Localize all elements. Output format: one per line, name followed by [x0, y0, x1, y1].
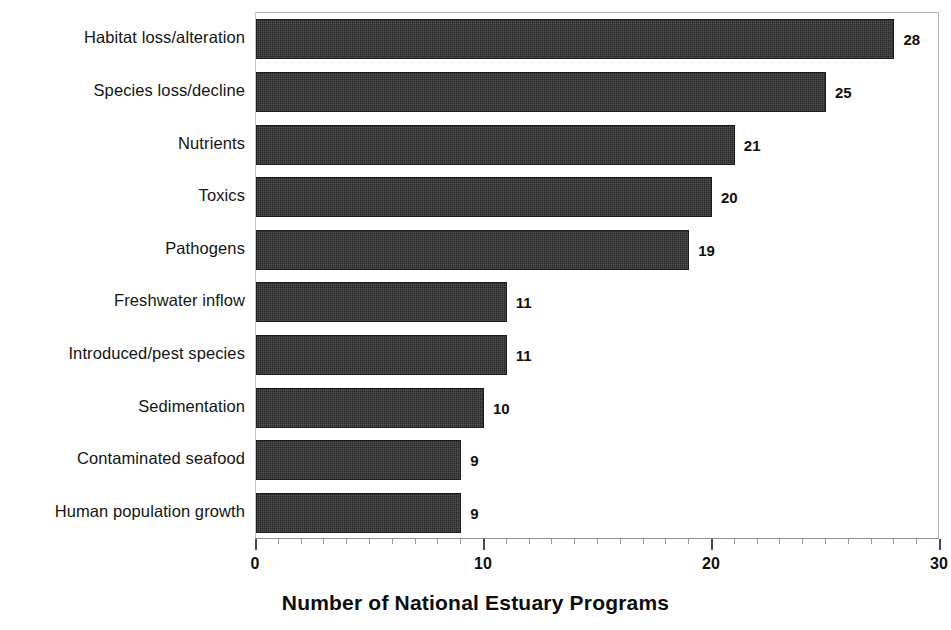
bar-value-label: 11: [516, 295, 532, 310]
x-axis-minor-tick: [688, 539, 689, 544]
x-axis-major-tick: [255, 539, 257, 550]
x-axis-minor-tick: [323, 539, 324, 544]
bar-chart: Habitat loss/alterationSpecies loss/decl…: [0, 0, 951, 630]
category-label: Introduced/pest species: [0, 345, 245, 362]
bar-value-label: 28: [903, 32, 920, 47]
x-axis-title: Number of National Estuary Programs: [0, 592, 951, 613]
bar-value-label: 9: [470, 506, 478, 521]
x-axis-minor-tick: [369, 539, 370, 544]
bar-value-label: 19: [698, 243, 715, 258]
category-label: Nutrients: [0, 135, 245, 152]
x-axis-minor-tick: [506, 539, 507, 544]
category-axis-labels: Habitat loss/alterationSpecies loss/decl…: [0, 12, 245, 538]
x-axis-minor-tick: [848, 539, 849, 544]
bar: [256, 493, 461, 533]
category-label: Human population growth: [0, 503, 245, 520]
bar-value-label: 25: [835, 85, 852, 100]
bar: [256, 440, 461, 480]
bar-value-label: 9: [470, 453, 478, 468]
x-axis-tick-label: 20: [702, 556, 720, 572]
x-axis-minor-tick: [643, 539, 644, 544]
x-axis-minor-tick: [529, 539, 530, 544]
category-label: Habitat loss/alteration: [0, 29, 245, 46]
x-axis-minor-tick: [620, 539, 621, 544]
bar: [256, 72, 826, 112]
x-axis-minor-tick: [301, 539, 302, 544]
x-axis-major-tick: [483, 539, 485, 550]
x-axis-minor-tick: [346, 539, 347, 544]
bar-value-label: 10: [493, 401, 510, 416]
x-axis-major-tick: [711, 539, 713, 550]
x-axis-minor-tick: [779, 539, 780, 544]
x-axis-minor-tick: [734, 539, 735, 544]
bar: [256, 230, 689, 270]
bar-value-label: 21: [744, 138, 761, 153]
category-label: Contaminated seafood: [0, 450, 245, 467]
x-axis-tick-label: 0: [251, 556, 260, 572]
x-axis-minor-tick: [802, 539, 803, 544]
bar: [256, 19, 894, 59]
bar-value-label: 20: [721, 190, 738, 205]
x-axis-major-tick: [939, 539, 941, 550]
x-axis-minor-tick: [278, 539, 279, 544]
x-axis-tick-label: 30: [930, 556, 948, 572]
x-axis-minor-tick: [757, 539, 758, 544]
x-axis-minor-tick: [893, 539, 894, 544]
bar: [256, 177, 712, 217]
bar: [256, 282, 507, 322]
x-axis-minor-tick: [916, 539, 917, 544]
category-label: Freshwater inflow: [0, 292, 245, 309]
category-label: Toxics: [0, 187, 245, 204]
x-axis-minor-tick: [665, 539, 666, 544]
x-axis-tick-label: 10: [474, 556, 492, 572]
plot-area: 282521201911111099: [255, 12, 939, 538]
x-axis-minor-tick: [437, 539, 438, 544]
x-axis-minor-tick: [415, 539, 416, 544]
x-axis-minor-tick: [825, 539, 826, 544]
bar: [256, 335, 507, 375]
category-label: Pathogens: [0, 240, 245, 257]
x-axis-minor-tick: [460, 539, 461, 544]
x-axis-minor-tick: [551, 539, 552, 544]
bar: [256, 125, 735, 165]
category-label: Sedimentation: [0, 398, 245, 415]
x-axis-minor-tick: [392, 539, 393, 544]
x-axis-minor-tick: [597, 539, 598, 544]
bar: [256, 388, 484, 428]
bar-value-label: 11: [516, 348, 532, 363]
x-axis-minor-tick: [574, 539, 575, 544]
x-axis-minor-tick: [871, 539, 872, 544]
category-label: Species loss/decline: [0, 82, 245, 99]
